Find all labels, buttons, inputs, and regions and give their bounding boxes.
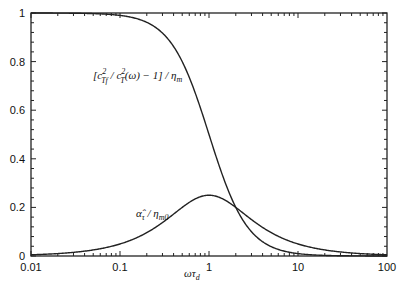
tick-label: 1 [206,261,212,273]
tick-label: 100 [378,261,396,273]
series-dispersion-curve [31,13,387,256]
tick-label: 0.4 [10,153,25,165]
annotation-dispersion: [c2Tf / c2T(ω) − 1] / ηm [93,67,183,85]
tick-label: 0.2 [10,201,25,213]
annotation-attenuation: α̂τ / ηm0 [136,207,168,222]
tick-label: 0.01 [20,261,41,273]
tick-label: 0.8 [10,56,25,68]
tick-label: 0 [19,250,25,262]
series-attenuation-curve [31,195,387,255]
tick-label: 10 [292,261,304,273]
tick-label: 1 [19,7,25,19]
tick-labels: 0.010.111010000.20.40.60.81 [10,7,396,273]
chart: 0.010.111010000.20.40.60.81 [c2Tf / c2T(… [0,0,403,288]
tick-label: 0.1 [112,261,127,273]
tick-label: 0.6 [10,104,25,116]
x-axis-label: ωτd [184,267,201,282]
